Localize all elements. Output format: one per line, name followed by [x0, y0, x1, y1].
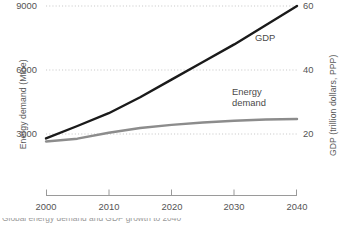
gridlines: [46, 6, 297, 134]
chart-container: Energy demand (Mtoe) GDP (trillion dolla…: [0, 0, 340, 227]
series-label-gdp: GDP: [255, 33, 275, 44]
series-label-energy-demand: Energy demand: [232, 87, 266, 108]
plot-area: [0, 0, 340, 227]
x-axis: [46, 190, 297, 196]
caption-text: Global energy demand and GDP growth to 2…: [2, 218, 338, 223]
caption-clipped: Global energy demand and GDP growth to 2…: [2, 218, 338, 227]
series-label-energy-line2: demand: [232, 98, 266, 109]
series-label-energy-line1: Energy: [232, 87, 266, 98]
